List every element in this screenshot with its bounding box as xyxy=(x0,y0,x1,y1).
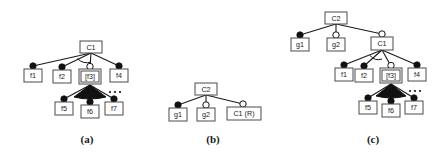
node-c-f1[interactable]: f1 xyxy=(335,62,353,81)
mandatory-decorator-icon xyxy=(116,63,122,69)
node-label: f4 xyxy=(116,71,122,80)
node-c-f3[interactable]: [f3] xyxy=(380,62,402,83)
node-label: C1 (R) xyxy=(233,109,254,118)
optional-decorator-icon xyxy=(203,102,209,108)
mandatory-decorator-icon xyxy=(30,63,36,69)
mandatory-decorator-icon xyxy=(365,95,371,101)
panel-b-edges xyxy=(178,95,243,105)
node-b-c2[interactable]: C2 xyxy=(195,83,217,95)
node-b-c1-reference[interactable]: C1 (R) xyxy=(227,101,261,120)
node-a-f1[interactable]: f1 xyxy=(24,63,42,82)
node-label: C2 xyxy=(331,14,340,23)
node-a-c1[interactable]: C1 xyxy=(80,41,102,53)
edge-c2-c1r xyxy=(206,95,243,104)
node-c-f4[interactable]: f4 xyxy=(408,62,426,81)
ellipsis-dot xyxy=(419,90,421,92)
node-c-f6[interactable]: f6 xyxy=(382,98,400,117)
edge-c2-g1 xyxy=(178,95,206,105)
optional-decorator-icon xyxy=(240,101,246,107)
node-a-f2[interactable]: f2 xyxy=(53,64,71,83)
panel-c-edges xyxy=(300,24,417,101)
panel-caption-c: (c) xyxy=(367,133,380,146)
mandatory-decorator-icon xyxy=(388,98,394,104)
ellipsis-dot xyxy=(114,91,116,93)
mandatory-decorator-icon xyxy=(414,62,420,68)
edge-c1-f2 xyxy=(62,53,91,67)
node-label: g2 xyxy=(202,110,210,119)
panel-caption-b: (b) xyxy=(206,133,220,146)
ellipsis-c xyxy=(409,90,421,92)
panel-b: C2 g1 g2 C1 (R) (b) xyxy=(169,83,261,146)
node-c-g2[interactable]: g2 xyxy=(327,32,345,51)
node-label: f5 xyxy=(61,104,67,113)
edge-c2-g1 xyxy=(300,24,336,35)
node-a-f5[interactable]: f5 xyxy=(55,96,73,115)
mandatory-decorator-icon xyxy=(411,95,417,101)
node-label: f7 xyxy=(411,103,417,112)
mandatory-decorator-icon xyxy=(111,96,117,102)
mandatory-decorator-icon xyxy=(341,62,347,68)
ellipsis-dot xyxy=(414,90,416,92)
mandatory-decorator-icon xyxy=(87,99,93,105)
optional-decorator-icon xyxy=(333,32,339,38)
panel-a: C1 f1 f2 [f3] f4 xyxy=(24,41,128,146)
node-label: f7 xyxy=(111,104,117,113)
mandatory-decorator-icon xyxy=(61,96,67,102)
node-label: f2 xyxy=(361,71,367,80)
node-label: g1 xyxy=(296,40,304,49)
node-c-c1[interactable]: C1 xyxy=(371,31,393,50)
node-label: C2 xyxy=(201,85,210,94)
node-b-g2[interactable]: g2 xyxy=(197,102,215,121)
optional-decorator-icon xyxy=(379,31,385,37)
ellipsis-dot xyxy=(109,91,111,93)
node-c-f7[interactable]: f7 xyxy=(405,95,423,114)
node-label: f6 xyxy=(87,107,93,116)
node-a-f6[interactable]: f6 xyxy=(81,99,99,118)
node-label: C1 xyxy=(86,43,95,52)
panel-caption-a: (a) xyxy=(81,133,94,146)
node-label: g1 xyxy=(174,110,182,119)
node-c-f2[interactable]: f2 xyxy=(355,63,373,82)
node-label: f2 xyxy=(59,72,65,81)
node-c-c2[interactable]: C2 xyxy=(325,12,347,24)
node-c-f5[interactable]: f5 xyxy=(359,95,377,114)
node-label: f1 xyxy=(30,71,36,80)
node-a-f7[interactable]: f7 xyxy=(105,96,123,115)
ellipsis-dot xyxy=(409,90,411,92)
feature-diagram-figure: C1 f1 f2 [f3] f4 xyxy=(0,0,440,159)
edge-c1-f4 xyxy=(91,53,119,66)
node-b-g1[interactable]: g1 xyxy=(169,102,187,121)
node-label: f4 xyxy=(414,70,420,79)
node-label: f6 xyxy=(388,106,394,115)
mandatory-decorator-icon xyxy=(297,32,303,38)
ellipsis-a xyxy=(109,91,121,93)
node-label: f1 xyxy=(341,70,347,79)
node-label: f5 xyxy=(365,103,371,112)
node-label: [f3] xyxy=(85,72,95,81)
node-a-f4[interactable]: f4 xyxy=(110,63,128,82)
mandatory-decorator-icon xyxy=(361,63,367,69)
panel-a-edges xyxy=(33,53,119,102)
mandatory-decorator-icon xyxy=(59,64,65,70)
node-label: C1 xyxy=(377,39,386,48)
ellipsis-dot xyxy=(119,91,121,93)
node-label: g2 xyxy=(332,40,340,49)
node-label: [f3] xyxy=(386,71,396,80)
mandatory-decorator-icon xyxy=(175,102,181,108)
edge-c2-c1 xyxy=(336,24,382,34)
edge-c1-f4 xyxy=(382,50,417,65)
panel-c: C2 g1 g2 C1 f1 f2 xyxy=(291,12,426,146)
feature-diagram-canvas: C1 f1 f2 [f3] f4 xyxy=(0,0,440,159)
node-a-f3[interactable]: [f3] xyxy=(79,63,101,84)
node-c-g1[interactable]: g1 xyxy=(291,32,309,51)
